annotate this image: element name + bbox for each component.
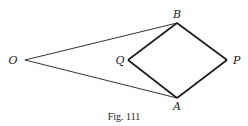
- segment-PB: [177, 23, 227, 60]
- segment-AP: [177, 60, 227, 98]
- segment-OB: [25, 23, 177, 60]
- point-label-O: O: [8, 54, 17, 67]
- point-label-Q: Q: [115, 54, 124, 67]
- point-label-B: B: [172, 8, 181, 21]
- figure-caption: Fig. 111: [108, 111, 141, 122]
- geometry-diagram: O B Q P A Fig. 111: [0, 0, 248, 126]
- point-label-A: A: [172, 100, 181, 113]
- point-label-P: P: [232, 54, 241, 67]
- segment-OA: [25, 60, 177, 98]
